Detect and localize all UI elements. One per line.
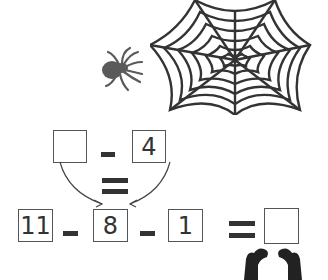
hands-icon: [240, 245, 310, 280]
answer-box[interactable]: [264, 208, 299, 244]
equals-sign-top-2: [229, 221, 255, 226]
spider-icon: [92, 40, 152, 95]
top-right-box: 4: [132, 130, 166, 163]
minus-sign-2: [140, 231, 155, 236]
box-8: 8: [93, 209, 128, 242]
top-left-box[interactable]: [53, 130, 87, 163]
box-1: 1: [168, 209, 203, 242]
spider-web-icon: [150, 0, 320, 115]
arrows-icon: [50, 160, 180, 210]
minus-sign-1: [63, 231, 78, 236]
minus-sign: [101, 152, 115, 157]
equals-sign-bottom-2: [229, 233, 255, 238]
box-11: 11: [18, 209, 53, 242]
